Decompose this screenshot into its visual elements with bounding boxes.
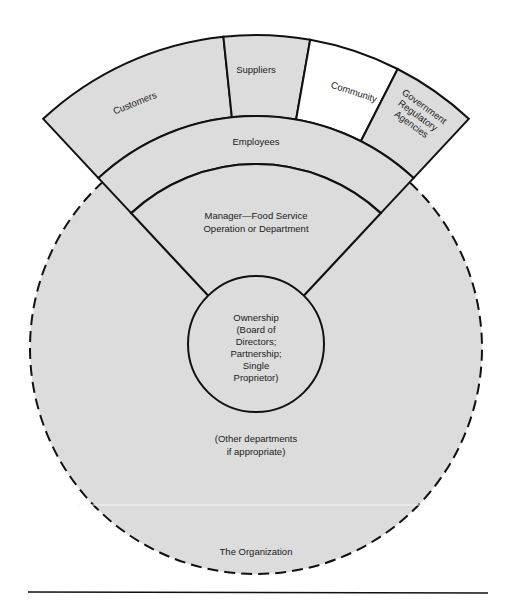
other-departments-label-line: if appropriate) — [227, 446, 286, 457]
manager-label-line: Manager—Food Service — [205, 210, 308, 221]
ownership-label-line: Partnership; — [230, 348, 281, 359]
stakeholder-diagram: Customers Suppliers Community Government… — [0, 0, 512, 614]
manager-label-line: Operation or Department — [203, 223, 308, 234]
suppliers-label: Suppliers — [236, 64, 276, 75]
ownership-label-line: Directors; — [236, 336, 277, 347]
ownership-label-line: Proprietor) — [234, 372, 279, 383]
bottom-rule — [28, 592, 488, 593]
ownership-label-line: Ownership — [233, 312, 278, 323]
employees-label: Employees — [233, 136, 280, 147]
segment-suppliers — [223, 35, 310, 120]
organization-label: The Organization — [220, 546, 293, 557]
ownership-label-line: (Board of — [236, 324, 275, 335]
other-departments-label-line: (Other departments — [215, 433, 298, 444]
ownership-label-line: Single — [243, 360, 269, 371]
